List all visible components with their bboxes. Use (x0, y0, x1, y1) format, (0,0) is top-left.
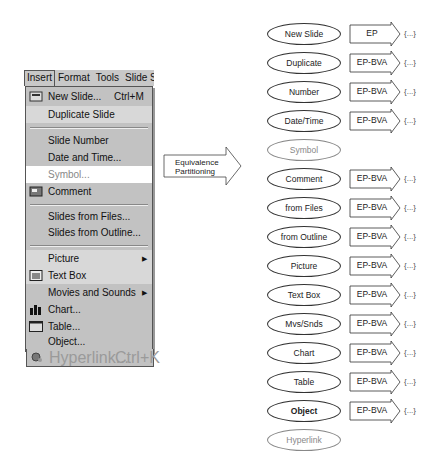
menu-item-comment[interactable]: Comment (26, 183, 152, 200)
menu-item-label: Comment (48, 183, 91, 200)
menu-separator (30, 245, 148, 247)
node-object: Object (267, 400, 341, 422)
technique-label: EP-BVA (351, 115, 393, 125)
menu-item-movies-sounds[interactable]: Movies and Sounds ▶ (26, 284, 152, 301)
result-placeholder: {...} (404, 29, 416, 38)
technique-label: EP-BVA (351, 173, 393, 183)
text-box-icon (29, 270, 43, 281)
node-symbol: Symbol (267, 139, 341, 161)
menu-item-text-box[interactable]: Text Box (26, 267, 152, 284)
menu-item-slide-number[interactable]: Slide Number (26, 132, 152, 149)
hyperlink-icon (30, 352, 44, 363)
node-number: Number (267, 81, 341, 103)
technique-label: EP (351, 28, 393, 38)
equivalence-partitioning-label: Equivalence Partitioning (175, 158, 219, 176)
menu-item-picture[interactable]: Picture ▶ (26, 250, 152, 267)
insert-menu-dropdown: New Slide... Ctrl+M Duplicate Slide Slid… (25, 86, 153, 352)
technique-label: EP-BVA (351, 318, 393, 328)
shortcut-label: Ctrl+M (114, 88, 144, 105)
menu-separator (30, 127, 148, 129)
result-placeholder: {...} (404, 203, 416, 212)
menu-item-label: Duplicate Slide (48, 106, 115, 123)
node-from-outline: from Outline (267, 226, 341, 248)
menu-item-chart[interactable]: Chart... (26, 301, 152, 318)
node-new-slide: New Slide (267, 23, 341, 45)
menu-item-hyperlink[interactable]: Hyperlink... Ctrl+K (26, 349, 154, 367)
menu-item-label: Picture (48, 250, 79, 267)
chart-icon (29, 304, 43, 315)
menu-item-label: Chart... (48, 301, 81, 318)
result-placeholder: {...} (404, 58, 416, 67)
node-comment: Comment (267, 168, 341, 190)
submenu-arrow-icon: ▶ (142, 250, 147, 267)
submenu-arrow-icon: ▶ (142, 284, 147, 301)
node-from-files: from Files (267, 197, 341, 219)
node-chart: Chart (267, 342, 341, 364)
menu-insert[interactable]: Insert (24, 70, 55, 86)
menu-slide-show[interactable]: Slide Sl (122, 70, 154, 86)
menu-tools[interactable]: Tools (93, 70, 122, 86)
menu-separator (30, 204, 148, 206)
result-placeholder: {...} (404, 319, 416, 328)
result-placeholder: {...} (404, 406, 416, 415)
menu-bar: InsertFormatToolsSlide Sl (24, 70, 154, 86)
technique-label: EP-BVA (351, 231, 393, 241)
menu-item-symbol[interactable]: Symbol... (26, 166, 152, 183)
result-placeholder: {...} (404, 116, 416, 125)
technique-label: EP-BVA (351, 289, 393, 299)
result-placeholder: {...} (404, 87, 416, 96)
label-line-1: Equivalence (175, 158, 219, 167)
result-placeholder: {...} (404, 261, 416, 270)
result-placeholder: {...} (404, 174, 416, 183)
result-placeholder: {...} (404, 290, 416, 299)
technique-label: EP-BVA (351, 202, 393, 212)
node-text-box: Text Box (267, 284, 341, 306)
result-placeholder: {...} (404, 232, 416, 241)
menu-item-label: Slide Number (48, 132, 109, 149)
menu-item-slides-from-files[interactable]: Slides from Files... (26, 208, 152, 225)
menu-item-slides-from-outline[interactable]: Slides from Outline... (26, 224, 152, 241)
result-placeholder: {...} (404, 377, 416, 386)
technique-label: EP-BVA (351, 347, 393, 357)
technique-label: EP-BVA (351, 57, 393, 67)
label-line-2: Partitioning (175, 167, 219, 176)
menu-item-label: Slides from Files... (48, 208, 130, 225)
technique-label: EP-BVA (351, 86, 393, 96)
new-slide-icon (29, 91, 43, 102)
menu-item-label: Movies and Sounds (48, 284, 136, 301)
comment-icon (29, 186, 43, 197)
menu-item-label: Symbol... (48, 166, 90, 183)
technique-label: EP-BVA (351, 405, 393, 415)
menu-item-duplicate-slide[interactable]: Duplicate Slide (26, 106, 152, 123)
node-movies-sounds: Mvs/Snds (267, 313, 341, 335)
menu-item-label: New Slide... (48, 88, 101, 105)
menu-item-new-slide[interactable]: New Slide... Ctrl+M (26, 88, 152, 105)
node-table: Table (267, 371, 341, 393)
result-placeholder: {...} (404, 348, 416, 357)
menu-item-label: Date and Time... (48, 149, 121, 166)
technique-label: EP-BVA (351, 376, 393, 386)
technique-label: EP-BVA (351, 260, 393, 270)
shortcut-label: Ctrl+K (115, 349, 160, 366)
node-hyperlink: Hyperlink (267, 429, 341, 451)
menu-item-label: Object... (48, 333, 85, 350)
menu-item-object[interactable]: Object... (26, 333, 152, 350)
node-duplicate: Duplicate (267, 52, 341, 74)
menu-item-label: Text Box (48, 267, 86, 284)
node-date-time: Date/Time (267, 110, 341, 132)
node-picture: Picture (267, 255, 341, 277)
table-icon (29, 321, 43, 332)
menu-item-label: Slides from Outline... (48, 224, 141, 241)
menu-item-date-time[interactable]: Date and Time... (26, 149, 152, 166)
menu-format[interactable]: Format (55, 70, 93, 86)
